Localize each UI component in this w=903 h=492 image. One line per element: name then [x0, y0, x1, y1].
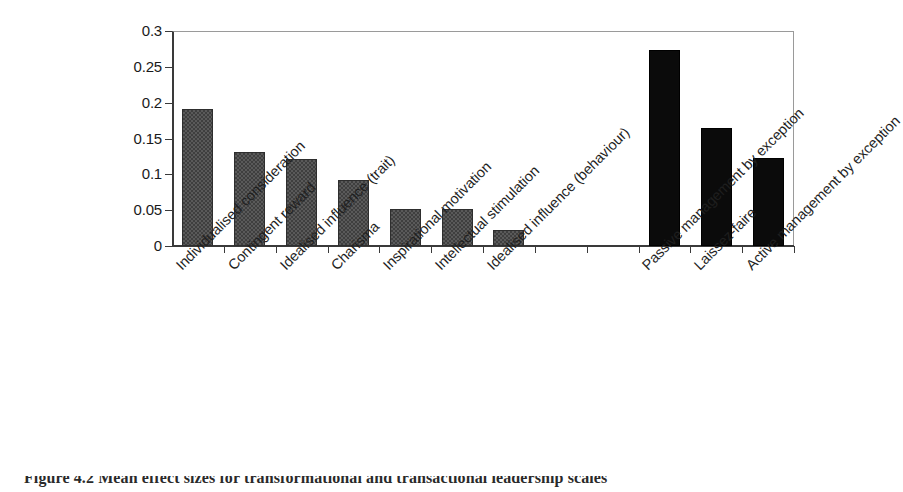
y-axis-tick	[165, 139, 172, 140]
x-axis-tick	[794, 246, 795, 253]
figure-caption: Figure 4.2 Mean effect sizes for transfo…	[0, 476, 810, 492]
bar	[649, 50, 680, 246]
y-axis-tick	[165, 31, 172, 32]
x-axis-tick	[742, 246, 743, 253]
y-axis-tick-label: 0.3	[142, 23, 162, 38]
y-axis-tick-label: 0.15	[134, 131, 162, 146]
x-axis-tick	[483, 246, 484, 253]
figure-caption-text: Figure 4.2 Mean effect sizes for transfo…	[24, 476, 607, 487]
y-axis-tick	[165, 210, 172, 211]
y-axis-tick-label: 0.2	[142, 95, 162, 110]
x-axis-tick	[535, 246, 536, 253]
x-axis-tick	[379, 246, 380, 253]
x-axis-tick	[224, 246, 225, 253]
y-axis-tick-label: 0	[154, 238, 162, 253]
y-axis-tick-label: 0.1	[142, 166, 162, 181]
y-axis-tick	[165, 67, 172, 68]
y-axis-tick	[165, 174, 172, 175]
x-axis-tick	[431, 246, 432, 253]
x-axis-tick	[276, 246, 277, 253]
x-axis-tick	[690, 246, 691, 253]
y-axis-tick	[165, 246, 172, 247]
y-axis-tick-label: 0.25	[134, 59, 162, 74]
x-axis-tick	[639, 246, 640, 253]
y-axis-tick	[165, 103, 172, 104]
y-axis-tick-label: 0.05	[134, 202, 162, 217]
x-axis-tick	[587, 246, 588, 253]
x-axis-tick	[328, 246, 329, 253]
